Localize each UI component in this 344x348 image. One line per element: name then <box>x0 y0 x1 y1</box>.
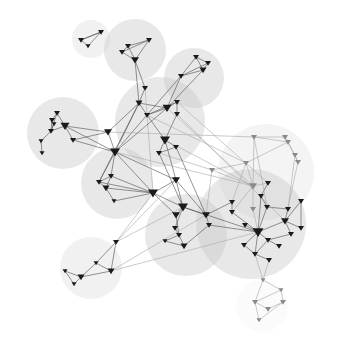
cluster-halo <box>81 147 153 219</box>
network-graph <box>0 0 344 348</box>
cluster-halo <box>27 97 99 169</box>
cluster-halo <box>104 19 166 81</box>
